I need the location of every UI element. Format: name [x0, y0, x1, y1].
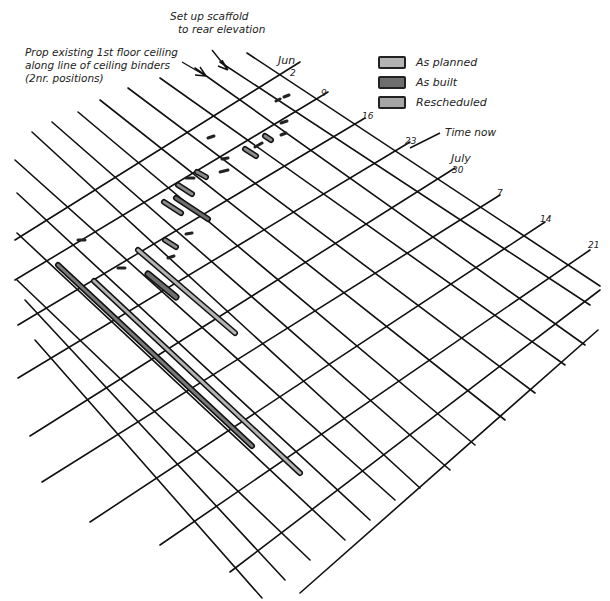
task-lines	[15, 53, 600, 598]
date-tick: 7	[497, 188, 503, 198]
time-now-label: Time now	[445, 126, 496, 139]
as-planned-swatch	[378, 56, 406, 69]
prop-annotation: Prop existing 1st floor ceiling along li…	[25, 46, 178, 85]
date-tick: 30	[452, 165, 463, 175]
date-tick: 16	[362, 111, 373, 121]
as-built-swatch	[378, 76, 406, 89]
date-tick: 14	[540, 214, 551, 224]
rescheduled-swatch	[378, 96, 406, 109]
scaffold-annotation: Set up scaffold to rear elevation	[170, 10, 265, 36]
date-tick: July	[451, 152, 471, 165]
legend-item-rescheduled: Rescheduled	[378, 92, 487, 112]
date-tick: 9	[321, 88, 327, 98]
legend-item-as-planned: As planned	[378, 52, 487, 72]
date-tick: 2	[290, 68, 296, 78]
date-tick: 21	[588, 240, 599, 250]
legend-item-as-built: As built	[378, 72, 487, 92]
date-tick: Jun	[278, 54, 295, 67]
legend: As planned As built Rescheduled	[378, 52, 487, 112]
isometric-gantt-grid	[0, 0, 610, 601]
date-tick: 23	[405, 136, 416, 146]
